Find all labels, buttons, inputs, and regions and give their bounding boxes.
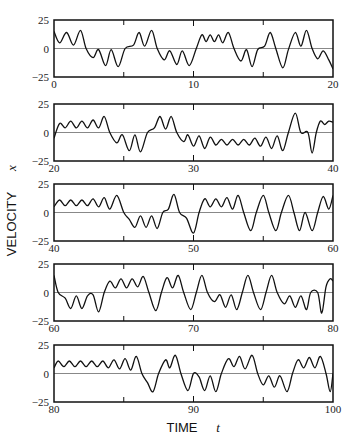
ytick-label: 25: [38, 178, 50, 190]
xtick-label: 50: [188, 242, 200, 254]
velocity-time-chart: 250−2501020250−25203040250−25405060250−2…: [0, 0, 354, 439]
panel-3: 250−25405060: [32, 178, 339, 254]
ytick-label: −25: [32, 315, 50, 327]
ytick-label: 25: [38, 98, 50, 110]
panel-1: 250−2501020: [32, 14, 339, 90]
xtick-label: 30: [188, 162, 200, 174]
velocity-trace: [54, 30, 333, 69]
ytick-label: 25: [38, 339, 50, 351]
ytick-label: 0: [44, 368, 50, 380]
xtick-label: 60: [328, 242, 340, 254]
ytick-label: 0: [44, 287, 50, 299]
xlabel-text: TIME: [166, 420, 197, 435]
xtick-label: 70: [188, 322, 200, 334]
xtick-label: 90: [188, 403, 200, 415]
ytick-label: −25: [32, 155, 50, 167]
xtick-label: 0: [51, 78, 57, 90]
panel-5: 250−258090100: [32, 339, 342, 415]
xlabel-var: t: [216, 420, 220, 435]
ytick-label: −25: [32, 235, 50, 247]
panel-2: 250−25203040: [32, 98, 339, 174]
ytick-label: 0: [44, 43, 50, 55]
xtick-label: 80: [49, 403, 61, 415]
xtick-label: 60: [49, 322, 61, 334]
xtick-label: 20: [49, 162, 61, 174]
ylabel-text: VELOCITY: [4, 192, 19, 257]
ylabel-var: x: [4, 165, 19, 172]
xtick-label: 40: [328, 162, 340, 174]
panel-4: 250−25607080: [32, 258, 339, 334]
xtick-label: 10: [188, 78, 200, 90]
panels: 250−2501020250−25203040250−25405060250−2…: [32, 14, 342, 415]
ytick-label: 0: [44, 207, 50, 219]
y-axis-label: VELOCITY x: [4, 165, 19, 256]
velocity-trace: [54, 194, 333, 233]
x-axis-label: TIME t: [166, 420, 220, 435]
xtick-label: 80: [328, 322, 340, 334]
ytick-label: 25: [38, 14, 50, 26]
xtick-label: 20: [328, 78, 340, 90]
ytick-label: 0: [44, 127, 50, 139]
xtick-label: 40: [49, 242, 61, 254]
ytick-label: −25: [32, 396, 50, 408]
ytick-label: 25: [38, 258, 50, 270]
ytick-label: −25: [32, 71, 50, 83]
velocity-trace: [54, 275, 333, 313]
xtick-label: 100: [325, 403, 342, 415]
